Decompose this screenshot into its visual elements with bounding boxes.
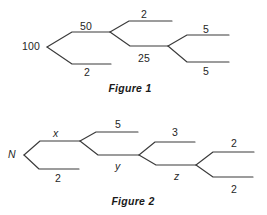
figure-2-branch-second-upper	[80, 132, 138, 141]
figure-1-root-label: 100	[22, 40, 40, 52]
binary-split-diagrams: 100 50 2 2 25 5 5 Figure 1 N x 2 5	[0, 0, 267, 215]
figure-2-branch-end-upper	[196, 152, 254, 165]
figure-2-branch-third-lower	[139, 155, 196, 165]
figure-2-label-3: 3	[172, 126, 178, 138]
figure-2-branch-root-upper	[24, 141, 80, 155]
figure-2-label-2-end-lower: 2	[231, 183, 237, 195]
figure-1-branch-mid-lower	[110, 32, 168, 46]
figure-1-caption: Figure 1	[108, 82, 151, 94]
figure-2-branch-second-lower	[80, 141, 139, 155]
figure-2-label-x: x	[52, 127, 59, 139]
figure-2-label-z: z	[173, 170, 180, 182]
figure-2-label-2-end-upper: 2	[231, 137, 237, 149]
figure-2-label-5: 5	[115, 118, 121, 130]
figure-2-branch-third-upper	[139, 142, 195, 155]
figure-2-label-y: y	[114, 160, 121, 172]
figure-1-label-5-upper: 5	[203, 23, 209, 35]
figure-1-label-50: 50	[80, 20, 92, 32]
figure-1-branch-root-lower	[47, 47, 111, 64]
figure-2-label-2-root-lower: 2	[55, 172, 61, 184]
figure-1-branch-end-upper	[168, 35, 229, 46]
figure-1-branch-root-upper	[47, 32, 110, 47]
figure-1-branch-mid-upper	[110, 21, 172, 32]
figure-1-group: 100 50 2 2 25 5 5 Figure 1	[22, 8, 229, 94]
figure-1-branch-end-lower	[168, 46, 229, 62]
figure-1-label-2-upper: 2	[141, 8, 147, 20]
figure-1-label-5-lower: 5	[203, 65, 209, 77]
figure-1-label-25: 25	[138, 52, 150, 64]
figure-1-label-2-lower: 2	[84, 66, 90, 78]
figure-2-group: N x 2 5 y 3 z 2 2 Figure 2	[8, 118, 254, 207]
diagram-page: 100 50 2 2 25 5 5 Figure 1 N x 2 5	[0, 0, 267, 215]
figure-2-branch-end-lower	[196, 165, 253, 177]
figure-2-root-label: N	[8, 148, 16, 160]
figure-2-branch-root-lower	[24, 155, 79, 169]
figure-2-caption: Figure 2	[111, 195, 154, 207]
